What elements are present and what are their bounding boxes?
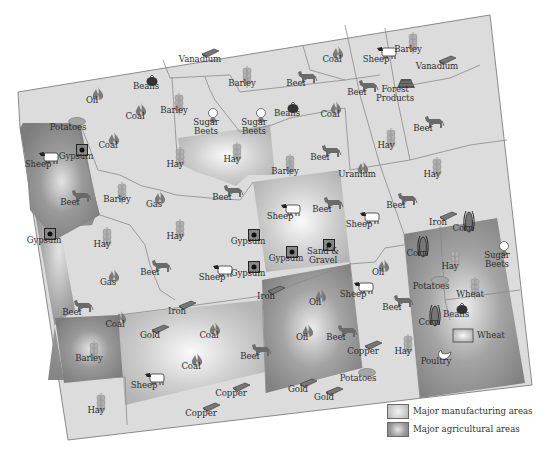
resource-label: Iron bbox=[429, 218, 447, 227]
resource-label: Sheep bbox=[131, 381, 158, 390]
resource-label: Beef bbox=[382, 303, 401, 312]
resource-label: Sheep bbox=[363, 55, 390, 64]
legend-label: Major manufacturing areas bbox=[413, 406, 533, 416]
resource-label: Beef bbox=[62, 308, 81, 317]
resource-label: Vanadium bbox=[179, 55, 221, 64]
resource-label: Vanadium bbox=[416, 62, 458, 71]
resource-label: Beef bbox=[140, 268, 159, 277]
agricultural-swatch bbox=[387, 422, 409, 437]
resource-label: Sheep bbox=[340, 290, 367, 299]
resource-label: Poultry bbox=[421, 357, 452, 366]
resource-label: Hay bbox=[441, 262, 458, 271]
resource-label: Gypsum bbox=[59, 152, 94, 161]
resource-label: Barley bbox=[75, 354, 103, 363]
resource-label: Gypsum bbox=[27, 236, 62, 245]
resource-label: Uranium bbox=[338, 170, 376, 179]
manufacturing-swatch bbox=[387, 404, 409, 419]
resource-label: Barley bbox=[271, 167, 299, 176]
map-legend: Major manufacturing areas Major agricult… bbox=[387, 402, 533, 438]
resource-label: Corn bbox=[419, 318, 440, 327]
inline-wheat-label: Wheat bbox=[477, 331, 505, 340]
resource-label: Beans bbox=[274, 109, 300, 118]
resource-label: Beef bbox=[347, 88, 366, 97]
resource-label: Corn bbox=[407, 249, 428, 258]
resource-label: Hay bbox=[87, 406, 104, 415]
legend-label: Major agricultural areas bbox=[413, 424, 520, 434]
resource-label: Oil bbox=[309, 298, 321, 307]
resource-label: Hay bbox=[423, 170, 440, 179]
resource-label: Barley bbox=[103, 195, 131, 204]
resource-label: Gypsum bbox=[231, 269, 266, 278]
resource-label: Coal bbox=[105, 320, 124, 329]
resource-label: Sheep bbox=[25, 160, 52, 169]
resource-label: ForestProducts bbox=[376, 85, 414, 103]
resource-label: Beef bbox=[312, 205, 331, 214]
resource-label: Barley bbox=[394, 45, 422, 54]
resource-label: Hay bbox=[166, 232, 183, 241]
legend-item-manufacturing: Major manufacturing areas bbox=[387, 402, 533, 420]
resource-label: SugarBeets bbox=[241, 118, 267, 136]
resource-label: Gypsum bbox=[269, 254, 304, 263]
resource-label: Barley bbox=[160, 106, 188, 115]
resource-label: Beef bbox=[413, 124, 432, 133]
resource-label: SugarBeets bbox=[193, 118, 219, 136]
resource-label: Potatoes bbox=[413, 282, 450, 291]
resource-label: Hay bbox=[223, 155, 240, 164]
resource-label: Iron bbox=[168, 307, 186, 316]
resource-label: Coal bbox=[199, 331, 218, 340]
resource-label: Beans bbox=[443, 310, 469, 319]
resource-label: Copper bbox=[347, 347, 378, 356]
resource-label: Coal bbox=[98, 141, 117, 150]
resource-label: Gold bbox=[288, 385, 308, 394]
resource-label: Sheep bbox=[199, 273, 226, 282]
resource-label: Hay bbox=[166, 160, 183, 169]
resource-label: Hay bbox=[377, 141, 394, 150]
resource-label: Wheat bbox=[456, 290, 484, 299]
resource-label: Beef bbox=[310, 153, 329, 162]
resource-label: Gold bbox=[314, 393, 334, 402]
resource-label: Coal bbox=[322, 55, 341, 64]
resource-label: SugarBeets bbox=[484, 251, 510, 269]
resource-label: Gas bbox=[146, 200, 162, 209]
resource-label: Coal bbox=[320, 110, 339, 119]
resource-label: Beef bbox=[240, 352, 259, 361]
resource-label: Beef bbox=[60, 198, 79, 207]
inline-wheat-swatch bbox=[453, 329, 473, 342]
resource-label: Beans bbox=[133, 82, 159, 91]
resource-label: Copper bbox=[185, 409, 216, 418]
resource-label: Beef bbox=[286, 79, 305, 88]
resource-label: Sheep bbox=[346, 220, 373, 229]
resource-label: Beef bbox=[326, 333, 345, 342]
resource-label: Corn bbox=[453, 224, 474, 233]
resource-label: Oil bbox=[86, 96, 98, 105]
resource-label: Barley bbox=[228, 79, 256, 88]
resource-label: Iron bbox=[257, 292, 275, 301]
resource-label: Potatoes bbox=[50, 123, 87, 132]
resource-label: Coal bbox=[125, 112, 144, 121]
resource-label: Hay bbox=[93, 240, 110, 249]
resource-label: Gypsum bbox=[231, 237, 266, 246]
resource-label: Gold bbox=[140, 331, 160, 340]
resource-label: Oil bbox=[372, 268, 384, 277]
resource-label: Copper bbox=[215, 389, 246, 398]
resource-label: Beef bbox=[212, 193, 231, 202]
resource-label: Sheep bbox=[267, 212, 294, 221]
resource-label: Hay bbox=[394, 347, 411, 356]
resource-map: VanadiumBarleyBeefCoalSheepBarleyVanadiu… bbox=[0, 0, 538, 453]
resource-label: Gas bbox=[100, 278, 116, 287]
resource-label: Beef bbox=[386, 201, 405, 210]
resource-label: Coal bbox=[181, 362, 200, 371]
resource-label: Oil bbox=[296, 333, 308, 342]
resource-label: Potatoes bbox=[340, 374, 377, 383]
legend-item-agricultural: Major agricultural areas bbox=[387, 420, 533, 438]
resource-label: Sand &Gravel bbox=[307, 247, 339, 265]
